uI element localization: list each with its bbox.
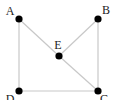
node-e xyxy=(55,52,62,59)
graph-diagram: ABCDE xyxy=(0,0,120,100)
node-b xyxy=(94,15,101,22)
edge-b-e xyxy=(59,19,98,56)
edge-e-c xyxy=(59,56,98,91)
node-label-b: B xyxy=(102,3,110,17)
node-label-e: E xyxy=(54,38,61,52)
edge-a-e xyxy=(19,19,59,56)
node-label-a: A xyxy=(6,4,15,18)
node-d xyxy=(15,87,22,94)
node-a xyxy=(15,15,22,22)
node-label-d: D xyxy=(6,92,15,100)
node-label-c: C xyxy=(100,92,108,100)
